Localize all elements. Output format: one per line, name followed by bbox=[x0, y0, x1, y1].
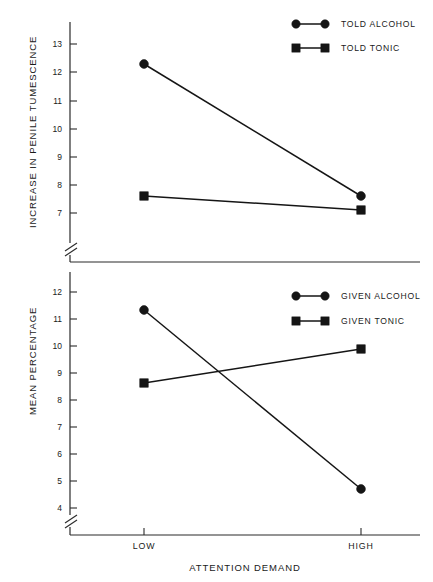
bottom-panel-ytick-label-4: 4 bbox=[57, 503, 62, 513]
bottom-panel-ytick-label-5: 5 bbox=[57, 476, 62, 486]
top-panel-axis-break-icon bbox=[65, 243, 77, 256]
bottom-panel-ytick-label-10: 10 bbox=[53, 341, 63, 351]
chart-svg: 13 12 11 10 9 8 7 INCREASE IN PENILE TUM… bbox=[0, 0, 433, 582]
legend-entry-given-tonic: GIVEN TONIC bbox=[292, 316, 405, 326]
legend-square-marker-icon bbox=[321, 317, 329, 325]
x-axis-category-high: HIGH bbox=[348, 541, 374, 551]
top-panel-legend: TOLD ALCOHOL TOLD TONIC bbox=[292, 19, 416, 53]
bottom-panel-ytick-label-12: 12 bbox=[53, 287, 63, 297]
x-axis-title: ATTENTION DEMAND bbox=[189, 562, 300, 573]
bottom-panel-legend: GIVEN ALCOHOL GIVEN TONIC bbox=[292, 291, 421, 326]
data-point-marker bbox=[140, 60, 149, 69]
bottom-panel-y-ticks bbox=[70, 292, 77, 508]
bottom-panel-axis-break-icon bbox=[65, 515, 77, 528]
top-panel-ytick-label-13: 13 bbox=[53, 39, 63, 49]
bottom-panel-ytick-label-11: 11 bbox=[53, 314, 62, 324]
legend-label-given-alcohol: GIVEN ALCOHOL bbox=[341, 291, 420, 301]
legend-circle-marker-icon bbox=[321, 20, 329, 28]
top-panel-y-axis-title: INCREASE IN PENILE TUMESCENCE bbox=[27, 36, 38, 228]
legend-square-marker-icon bbox=[321, 44, 329, 52]
bottom-panel-series-given-alcohol bbox=[140, 306, 366, 494]
bottom-panel-series-given-tonic bbox=[140, 345, 365, 387]
legend-label-told-alcohol: TOLD ALCOHOL bbox=[341, 19, 416, 29]
data-point-marker bbox=[357, 206, 365, 214]
bottom-panel: 12 11 10 9 8 7 6 5 4 MEAN PERCENTAGE bbox=[27, 272, 420, 573]
top-panel-series-told-alcohol bbox=[140, 60, 366, 201]
legend-entry-given-alcohol: GIVEN ALCOHOL bbox=[292, 291, 421, 301]
data-point-marker bbox=[357, 192, 366, 201]
data-point-marker bbox=[140, 306, 149, 315]
top-panel: 13 12 11 10 9 8 7 INCREASE IN PENILE TUM… bbox=[27, 19, 420, 262]
bottom-panel-ytick-label-7: 7 bbox=[57, 422, 62, 432]
top-panel-ytick-label-11: 11 bbox=[53, 96, 62, 106]
legend-square-marker-icon bbox=[292, 317, 300, 325]
top-panel-ytick-label-12: 12 bbox=[53, 67, 63, 77]
legend-label-given-tonic: GIVEN TONIC bbox=[341, 316, 405, 326]
top-panel-y-ticks bbox=[70, 44, 77, 213]
legend-entry-told-alcohol: TOLD ALCOHOL bbox=[292, 19, 416, 29]
top-panel-ytick-label-10: 10 bbox=[53, 124, 63, 134]
data-point-marker bbox=[357, 485, 366, 494]
bottom-panel-ytick-label-6: 6 bbox=[57, 449, 62, 459]
figure-container: 13 12 11 10 9 8 7 INCREASE IN PENILE TUM… bbox=[0, 0, 433, 582]
top-panel-ytick-label-8: 8 bbox=[57, 180, 62, 190]
legend-square-marker-icon bbox=[292, 44, 300, 52]
legend-circle-marker-icon bbox=[292, 292, 300, 300]
bottom-panel-ytick-label-9: 9 bbox=[57, 368, 62, 378]
legend-circle-marker-icon bbox=[292, 20, 300, 28]
bottom-panel-ytick-label-8: 8 bbox=[57, 395, 62, 405]
data-point-marker bbox=[140, 379, 148, 387]
bottom-panel-y-axis-title: MEAN PERCENTAGE bbox=[27, 307, 38, 415]
data-point-marker bbox=[140, 192, 148, 200]
legend-label-told-tonic: TOLD TONIC bbox=[341, 43, 400, 53]
x-axis-category-low: LOW bbox=[133, 541, 156, 551]
top-panel-series-told-tonic bbox=[140, 192, 365, 214]
top-panel-ytick-label-7: 7 bbox=[57, 208, 62, 218]
legend-entry-told-tonic: TOLD TONIC bbox=[292, 43, 400, 53]
x-axis-ticks bbox=[144, 528, 361, 535]
data-point-marker bbox=[357, 345, 365, 353]
top-panel-ytick-label-9: 9 bbox=[57, 152, 62, 162]
legend-circle-marker-icon bbox=[321, 292, 329, 300]
